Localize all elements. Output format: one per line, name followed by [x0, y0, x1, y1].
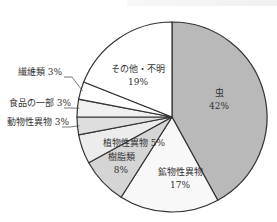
slice-label: 鉱物性異物 — [158, 166, 203, 177]
pie-chart: 虫42%鉱物性異物17%樹脂類8%植物性異物 5%動物性異物 3%食品の一部 3… — [0, 0, 277, 222]
slice-label: その他・不明 — [111, 63, 165, 74]
slice-percent: 19% — [128, 77, 148, 87]
slice-label: 虫 — [215, 87, 224, 98]
slice-label: 繊維類 3% — [18, 66, 63, 77]
slice-label: 動物性異物 3% — [7, 116, 70, 127]
leader-line — [64, 77, 83, 91]
slice-percent: 42% — [209, 101, 229, 111]
slice-percent: 17% — [170, 180, 190, 190]
slice-label: 樹脂類 — [108, 151, 135, 162]
slice-label: 食品の一部 3% — [9, 97, 72, 108]
slice-percent: 8% — [114, 165, 129, 175]
slice-label: 植物性異物 5% — [103, 137, 166, 148]
